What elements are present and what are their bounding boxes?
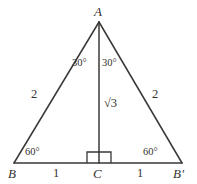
geometry-diagram: A B C B' 30° 30° 60° 60° 2 2 √3 1 1: [0, 0, 197, 184]
vertex-label-a: A: [94, 5, 102, 18]
angle-label-base-right: 60°: [143, 147, 158, 158]
vertex-label-c: C: [93, 167, 102, 180]
right-angle-marker-icon-right: [99, 152, 111, 163]
length-label-side-right: 2: [152, 88, 158, 101]
vertex-label-b-prime: B': [173, 167, 184, 180]
side-ab-line: [14, 22, 99, 163]
length-label-altitude: √3: [104, 97, 117, 110]
right-angle-marker-icon: [87, 152, 99, 163]
length-label-base-left-half: 1: [53, 167, 59, 180]
length-label-base-right-half: 1: [137, 167, 143, 180]
side-ab-prime-line: [99, 22, 182, 163]
angle-label-apex-right: 30°: [102, 58, 117, 69]
angle-label-base-left: 60°: [25, 147, 40, 158]
vertex-label-b: B: [8, 167, 16, 180]
angle-label-apex-left: 30°: [72, 58, 87, 69]
length-label-side-left: 2: [31, 88, 37, 101]
